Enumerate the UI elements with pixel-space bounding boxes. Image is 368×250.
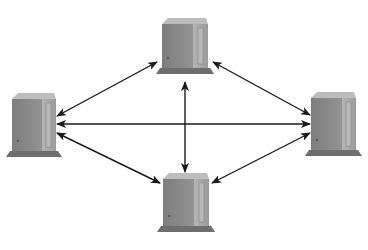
power-led-icon: [17, 140, 20, 143]
bidirectional-arrow-server-left-server-bottom: [57, 133, 160, 183]
server-base: [305, 150, 362, 156]
server-front-face: [311, 98, 342, 150]
server-top-face: [311, 92, 356, 98]
server-base: [156, 68, 214, 74]
server-top-face: [12, 93, 56, 99]
server-nodes: [6, 18, 362, 232]
server-top-face: [162, 18, 208, 24]
drive-bay-slot: [46, 103, 51, 147]
bidirectional-arrow-server-top-server-right: [213, 62, 310, 115]
drive-bay-slot: [199, 183, 204, 222]
server-top-icon: [156, 18, 214, 74]
server-left-icon: [6, 93, 62, 157]
server-front-face: [12, 99, 42, 151]
bidirectional-arrow-server-right-server-bottom: [212, 133, 310, 183]
server-bottom-icon: [157, 173, 215, 232]
network-diagram: [0, 0, 368, 250]
bidirectional-arrow-server-top-server-left: [57, 62, 157, 116]
power-led-icon: [316, 139, 319, 142]
server-front-face: [162, 24, 193, 68]
server-right-icon: [305, 92, 362, 156]
power-led-icon: [167, 57, 170, 60]
power-led-icon: [168, 215, 171, 218]
server-base: [157, 226, 215, 232]
server-top-face: [163, 173, 209, 179]
drive-bay-slot: [346, 102, 351, 146]
drive-bay-slot: [198, 28, 203, 64]
server-base: [6, 151, 62, 157]
connection-arrows: [57, 62, 310, 183]
server-front-face: [163, 179, 194, 226]
